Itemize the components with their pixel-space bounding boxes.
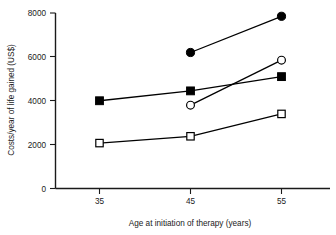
series-line-open-circle [191,60,282,105]
x-tick-label-55: 55 [277,197,287,206]
marker-filled-square-35 [96,97,104,105]
marker-filled-square-45 [187,87,195,95]
data-markers [96,12,286,147]
marker-filled-circle-45 [186,48,194,56]
series-line-filled-circle [191,16,282,52]
y-tick-label-4000: 4000 [28,97,47,106]
marker-open-square-55 [278,110,285,117]
x-axis-title: Age at initiation of therapy (years) [129,219,252,228]
y-tick-label-0: 0 [41,185,46,194]
line-chart: 0 2000 4000 6000 8000 35 45 55 Age at in… [0,0,336,235]
y-tick-label-2000: 2000 [28,141,47,150]
marker-open-circle-55 [278,56,286,64]
y-tick-label-6000: 6000 [28,53,47,62]
x-tick-label-45: 45 [186,197,196,206]
marker-filled-circle-55 [277,12,285,20]
marker-filled-square-55 [278,73,286,81]
marker-open-square-45 [187,133,194,140]
y-axis-title: Costs/year of life gained (US$) [7,44,16,156]
marker-open-square-35 [96,139,103,146]
y-tick-label-8000: 8000 [28,9,47,18]
chart-figure: 0 2000 4000 6000 8000 35 45 55 Age at in… [0,0,336,235]
x-tick-label-35: 35 [95,197,105,206]
marker-open-circle-45 [187,101,195,109]
